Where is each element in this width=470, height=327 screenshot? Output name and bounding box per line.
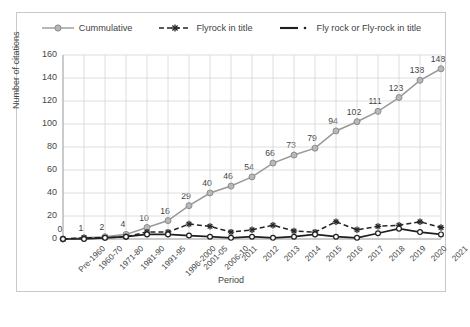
plot-area	[17, 13, 447, 293]
chart-container: Cummulative Flyrock in title Fly rock or…	[16, 12, 446, 292]
gridlines	[63, 55, 441, 239]
x-tick-label: 2021	[450, 244, 469, 263]
